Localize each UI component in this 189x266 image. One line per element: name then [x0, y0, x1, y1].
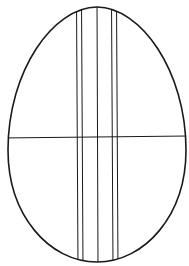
- vertical-stripe-1: [77, 0, 79, 266]
- vertical-stripe-2: [82, 0, 84, 266]
- vertical-stripe-5: [117, 0, 119, 266]
- horizontal-stripe: [0, 136, 189, 138]
- vertical-stripe-4: [112, 0, 114, 266]
- egg-diagram: [0, 0, 189, 266]
- vertical-stripe-3: [97, 0, 98, 266]
